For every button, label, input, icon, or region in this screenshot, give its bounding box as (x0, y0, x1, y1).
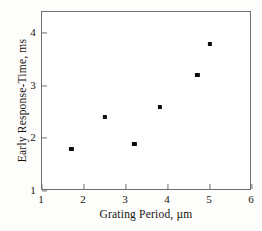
y-axis-tick (42, 85, 47, 86)
x-axis-tick-label: 3 (122, 193, 128, 205)
y-axis-tick-label: 4 (30, 26, 36, 38)
x-axis-tick-label: 5 (206, 193, 212, 205)
data-point (195, 73, 199, 77)
scatter-chart-figure: 123456 1234 Grating Period, µm Early Res… (0, 0, 262, 231)
data-point (132, 142, 136, 146)
x-axis-tick-label: 1 (38, 193, 44, 205)
y-axis-tick-label: 1 (30, 184, 36, 196)
x-axis-tick (167, 184, 168, 189)
y-axis-tick-label: 2 (30, 131, 36, 143)
x-axis-title: Grating Period, µm (41, 208, 251, 220)
data-point (103, 115, 107, 119)
data-point (158, 105, 162, 109)
y-axis-tick (42, 190, 47, 191)
x-axis-tick (41, 184, 42, 189)
plot-frame (41, 11, 251, 190)
x-axis-tick (125, 184, 126, 189)
data-points-layer (42, 12, 250, 189)
x-axis-tick-label: 6 (248, 193, 254, 205)
data-point (69, 147, 73, 151)
x-axis-tick (251, 184, 252, 189)
y-axis-title: Early Response-Time, ms (14, 11, 30, 190)
y-axis-tick (42, 138, 47, 139)
x-axis-tick-label: 4 (164, 193, 170, 205)
x-axis-tick (83, 184, 84, 189)
x-axis-tick-label: 2 (80, 193, 86, 205)
y-axis-tick-label: 3 (30, 79, 36, 91)
x-axis-tick (209, 184, 210, 189)
y-axis-tick (42, 32, 47, 33)
data-point (208, 41, 212, 45)
